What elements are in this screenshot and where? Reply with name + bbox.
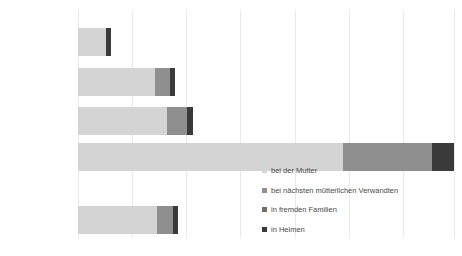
legend-label: bei der Mutter — [271, 166, 317, 175]
legend-label: in Heimen — [271, 225, 305, 234]
legend-swatch-icon — [262, 188, 267, 193]
legend-swatch-icon — [262, 207, 267, 212]
stacked-bar-chart: SowjetunionGroßbritannienFrankreichUSASo… — [0, 0, 462, 256]
bar-segment — [157, 206, 173, 234]
legend-swatch-icon — [262, 227, 267, 232]
gridline-3 — [240, 10, 241, 238]
bar-row: Großbritannien — [78, 68, 175, 96]
bar-segment — [78, 107, 167, 135]
bar-segment — [155, 68, 170, 96]
bar-segment — [78, 206, 157, 234]
bar-segment — [167, 107, 188, 135]
bar-row: Sowjetunion — [78, 28, 111, 56]
bar-row: Sonstige Nationen — [78, 206, 178, 234]
bar-row: Frankreich — [78, 107, 193, 135]
legend-item[interactable]: bei nächsten mütterlichen Verwandten — [262, 186, 398, 195]
bar-segment — [78, 28, 106, 56]
gridline-6 — [403, 10, 404, 238]
chart-legend: bei der Mutterbei nächsten mütterlichen … — [262, 166, 398, 234]
legend-item[interactable]: in fremden Familien — [262, 205, 398, 214]
bar-segment — [173, 206, 179, 234]
bar-segment — [170, 68, 175, 96]
bar-segment — [106, 28, 112, 56]
legend-swatch-icon — [262, 168, 267, 173]
gridline-7 — [454, 10, 455, 238]
legend-label: in fremden Familien — [271, 205, 337, 214]
bar-segment — [432, 143, 454, 171]
legend-item[interactable]: bei der Mutter — [262, 166, 398, 175]
legend-label: bei nächsten mütterlichen Verwandten — [271, 186, 398, 195]
bar-segment — [187, 107, 193, 135]
legend-item[interactable]: in Heimen — [262, 225, 398, 234]
bar-segment — [78, 68, 155, 96]
